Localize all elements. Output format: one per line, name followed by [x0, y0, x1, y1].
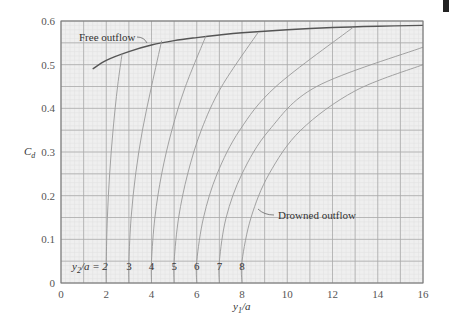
- x-tick-label: 4: [149, 288, 155, 300]
- curve-label: 7: [217, 260, 223, 272]
- curve-label: 6: [194, 260, 200, 272]
- x-tick-label: 8: [239, 288, 245, 300]
- y-tick-label: 0: [50, 277, 56, 289]
- y-tick-label: 0.1: [41, 233, 55, 245]
- x-tick-label: 6: [194, 288, 200, 300]
- x-axis-label: y1/a: [232, 300, 251, 315]
- y-axis-label: Cd: [24, 145, 36, 160]
- x-tick-label: 14: [372, 288, 384, 300]
- x-tick-label: 16: [418, 288, 430, 300]
- y-axis-ticks: 00.10.20.30.40.50.6: [41, 15, 55, 289]
- x-axis-ticks: 0246810121416: [58, 288, 429, 300]
- corner-mark: [443, 0, 449, 12]
- curve-label: 4: [149, 260, 155, 272]
- x-tick-label: 2: [104, 288, 110, 300]
- y-tick-label: 0.3: [41, 146, 55, 158]
- y-tick-label: 0.2: [41, 190, 55, 202]
- drowned-outflow-label: Drowned outflow: [278, 209, 356, 221]
- y-tick-label: 0.5: [41, 59, 55, 71]
- chart: 0246810121416 00.10.20.30.40.50.6 345678…: [0, 0, 449, 331]
- free-outflow-label: Free outflow: [79, 31, 136, 43]
- curve-label: 5: [171, 260, 177, 272]
- curve-label: 8: [239, 260, 245, 272]
- y-tick-label: 0.6: [41, 15, 55, 27]
- curve-label: 3: [126, 260, 132, 272]
- x-tick-label: 10: [282, 288, 294, 300]
- x-tick-label: 12: [327, 288, 338, 300]
- y-tick-label: 0.4: [41, 102, 55, 114]
- x-tick-label: 0: [58, 288, 64, 300]
